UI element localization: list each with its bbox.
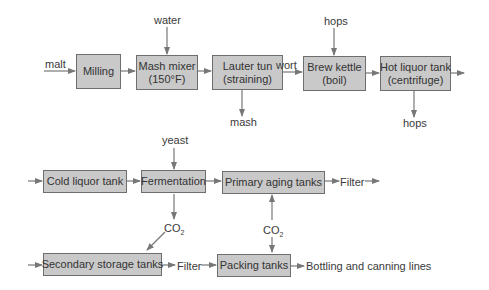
hot-liquor-tank-note: (centrifuge)	[388, 74, 444, 87]
secondary-storage-tanks-box: Secondary storage tanks	[43, 253, 162, 276]
hot-liquor-tank-label: Hot liquor tank	[380, 61, 451, 74]
secondary-storage-tanks-label: Secondary storage tanks	[42, 258, 164, 271]
packing-tanks-box: Packing tanks	[217, 254, 291, 277]
mash-mixer-box: Mash mixer (150°F)	[136, 55, 198, 90]
cold-liquor-tank-label: Cold liquor tank	[47, 175, 123, 188]
hot-liquor-tank-box: Hot liquor tank (centrifuge)	[380, 56, 451, 91]
filter-label-row2: Filter	[340, 176, 364, 188]
mash-mixer-label: Mash mixer	[139, 60, 196, 73]
primary-aging-tanks-label: Primary aging tanks	[225, 176, 322, 189]
lauter-tun-label: Lauter tun	[223, 60, 273, 73]
flow-arrows	[0, 0, 489, 290]
malt-label: malt	[45, 58, 66, 70]
brew-kettle-note: (boil)	[322, 74, 346, 87]
filter-label-row3: Filter	[177, 260, 201, 272]
hops-out-label: hops	[403, 117, 427, 129]
co2-right-label: CO2	[263, 224, 283, 241]
milling-box: Milling	[76, 54, 121, 89]
yeast-label: yeast	[162, 134, 188, 146]
mash-mixer-temp: (150°F)	[149, 73, 186, 86]
lauter-tun-box: Lauter tun (straining)	[212, 55, 283, 90]
wort-label: wort	[276, 59, 297, 71]
hops-in-label: hops	[324, 15, 348, 27]
brew-kettle-label: Brew kettle	[307, 61, 361, 74]
bottling-label: Bottling and canning lines	[306, 260, 431, 272]
water-label: water	[154, 14, 181, 26]
fermentation-label: Fermentation	[141, 175, 206, 188]
lauter-tun-note: (straining)	[223, 73, 272, 86]
fermentation-box: Fermentation	[141, 170, 206, 193]
milling-label: Milling	[83, 65, 114, 78]
primary-aging-tanks-box: Primary aging tanks	[222, 171, 325, 194]
co2-left-label: CO2	[164, 222, 184, 239]
packing-tanks-label: Packing tanks	[220, 259, 288, 272]
mash-label: mash	[230, 116, 257, 128]
cold-liquor-tank-box: Cold liquor tank	[43, 170, 127, 193]
brew-kettle-box: Brew kettle (boil)	[303, 56, 366, 91]
